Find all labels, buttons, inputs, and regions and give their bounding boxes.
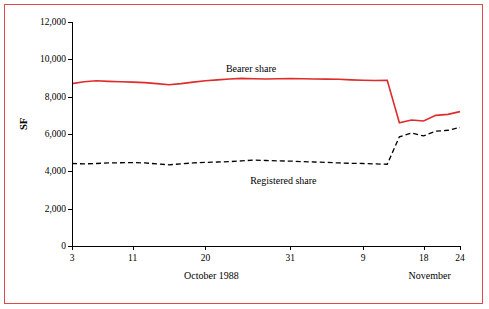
y-tick-mark [68, 134, 72, 135]
y-tick-mark [68, 209, 72, 210]
x-tick-mark [460, 246, 461, 250]
x-tick-label: 31 [286, 253, 296, 263]
y-axis-line [72, 22, 73, 246]
series-line [72, 127, 460, 164]
x-tick-mark [290, 246, 291, 250]
series-label: Registered share [250, 175, 316, 186]
y-tick-mark [68, 22, 72, 23]
y-tick-label: 12,000 [20, 17, 66, 27]
x-tick-label: 24 [455, 253, 465, 263]
x-tick-label: 9 [361, 253, 366, 263]
x-tick-mark [205, 246, 206, 250]
y-tick-label: 8,000 [20, 92, 66, 102]
y-tick-mark [68, 59, 72, 60]
y-tick-mark [68, 171, 72, 172]
x-group-label: October 1988 [184, 270, 239, 281]
x-tick-label: 11 [128, 253, 137, 263]
x-tick-mark [133, 246, 134, 250]
series-lines [72, 22, 460, 246]
series-line [72, 78, 460, 122]
y-tick-mark [68, 97, 72, 98]
y-tick-label: 6,000 [20, 129, 66, 139]
chart-page: SF 02,0004,0006,0008,00010,00012,000 311… [0, 0, 489, 309]
plot-area: 02,0004,0006,0008,00010,00012,000 311203… [72, 22, 460, 246]
y-tick-label: 10,000 [20, 54, 66, 64]
y-tick-label: 4,000 [20, 166, 66, 176]
y-tick-label: 2,000 [20, 204, 66, 214]
x-tick-label: 3 [70, 253, 75, 263]
x-group-label: November [409, 270, 451, 281]
x-tick-mark [424, 246, 425, 250]
x-tick-label: 20 [201, 253, 211, 263]
x-tick-mark [363, 246, 364, 250]
y-tick-label: 0 [20, 241, 66, 251]
x-tick-mark [72, 246, 73, 250]
x-axis-line [72, 246, 460, 247]
series-label: Bearer share [226, 63, 276, 74]
x-tick-label: 18 [419, 253, 429, 263]
